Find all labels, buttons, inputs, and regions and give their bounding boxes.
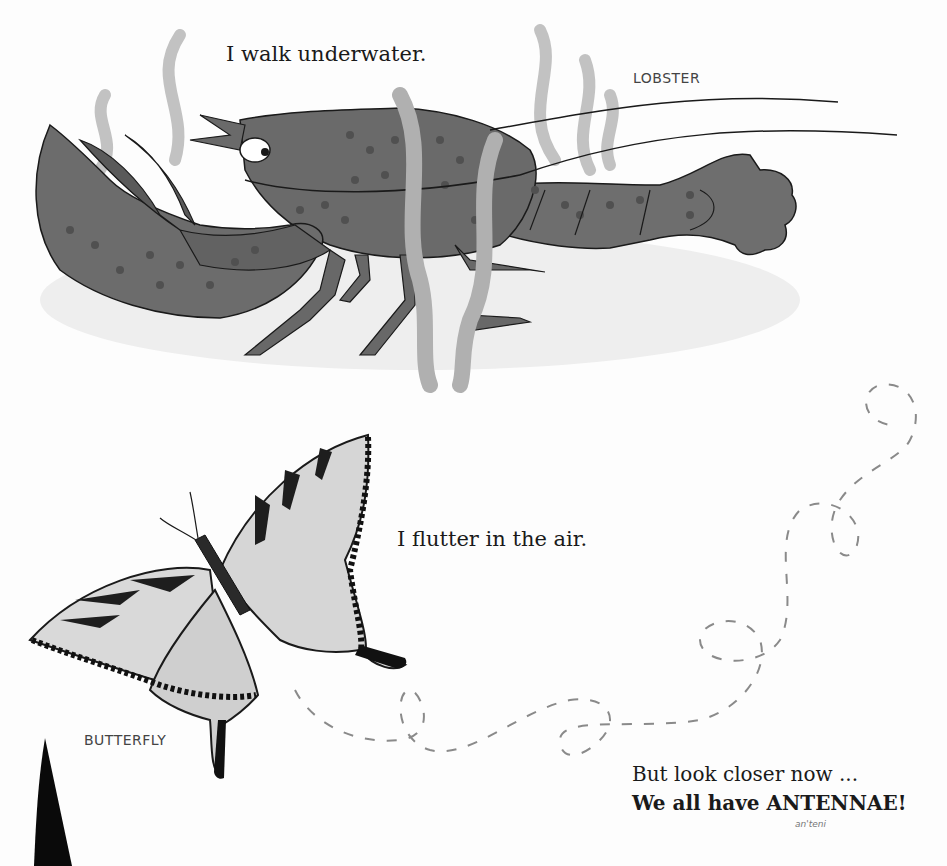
butterfly-illustration (30, 435, 406, 779)
flight-path-dashed (295, 384, 916, 755)
butterfly-caption: I flutter in the air. (397, 527, 587, 551)
pronunciation-note: an'teni (795, 819, 826, 829)
lobster-rostrum (190, 115, 245, 150)
lobster-caption: I walk underwater. (226, 42, 426, 66)
lobster-pupil (261, 148, 269, 156)
butterfly-label: BUTTERFLY (84, 732, 166, 748)
butterfly-wing-upper-right (220, 435, 405, 668)
closing-line-1: But look closer now ... (632, 762, 858, 786)
closing-line-2: We all have ANTENNAE! (632, 791, 906, 815)
butterfly-antennae (160, 492, 198, 540)
lobster-illustration (36, 30, 897, 385)
lobster-label: LOBSTER (633, 70, 700, 86)
corner-dark-shape (34, 738, 72, 866)
lobster-tail (505, 154, 796, 254)
book-page: I walk underwater. LOBSTER I flutter in … (0, 0, 947, 866)
